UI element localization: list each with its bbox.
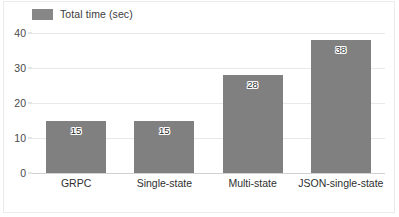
bar-chart: Total time (sec) 010203040 15152838 GRPC… [0, 0, 399, 217]
x-axis-label: JSON-single-state [297, 177, 385, 190]
bar-item[interactable]: 28 [223, 33, 283, 173]
y-tick-label-0: 0 [20, 167, 26, 179]
legend-label-total-time: Total time (sec) [60, 8, 133, 20]
bar-value-label: 38 [311, 44, 371, 55]
chart-legend: Total time (sec) [32, 7, 133, 21]
bar-item[interactable]: 38 [311, 33, 371, 173]
x-axis-label: Multi-state [209, 177, 297, 190]
bar-value-label: 28 [223, 79, 283, 90]
gridline-0 [32, 173, 385, 174]
bar-series-total-time: 15152838 [32, 33, 385, 173]
bar-value-label: 15 [134, 125, 194, 136]
y-tick-label-20: 20 [14, 97, 26, 109]
bar-rect[interactable]: 15 [134, 121, 194, 174]
y-tick-label-40: 40 [14, 27, 26, 39]
bar-item[interactable]: 15 [134, 33, 194, 173]
y-tick-label-10: 10 [14, 132, 26, 144]
bar-rect[interactable]: 28 [223, 75, 283, 173]
plot-area: 010203040 15152838 [32, 33, 385, 173]
bar-rect[interactable]: 15 [46, 121, 106, 174]
bar-value-label: 15 [46, 125, 106, 136]
x-axis-label: Single-state [120, 177, 208, 190]
bar-item[interactable]: 15 [46, 33, 106, 173]
x-axis-label: GRPC [32, 177, 120, 190]
x-axis-labels: GRPCSingle-stateMulti-stateJSON-single-s… [32, 177, 385, 215]
legend-swatch-total-time [32, 9, 53, 20]
y-tick-label-30: 30 [14, 62, 26, 74]
bar-rect[interactable]: 38 [311, 40, 371, 173]
